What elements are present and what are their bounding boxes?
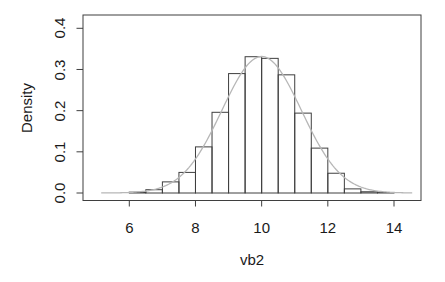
x-axis-tick-label: 8: [191, 220, 199, 235]
histogram-bar: [245, 57, 262, 193]
y-axis-tick-label: 0.4: [52, 18, 67, 39]
x-axis-tick-label: 14: [386, 220, 403, 235]
histogram-bar: [262, 58, 279, 193]
x-axis-title: vb2: [240, 252, 264, 267]
x-axis-tick-label: 12: [319, 220, 336, 235]
density-curve: [101, 57, 412, 193]
plot-box: [83, 15, 421, 201]
histogram-bar: [195, 147, 212, 193]
histogram-bar: [328, 173, 345, 193]
y-axis-tick-label: 0.0: [52, 183, 67, 204]
histogram-bar: [344, 189, 361, 193]
x-axis-tick-label: 10: [253, 220, 270, 235]
y-axis-tick-label: 0.3: [52, 59, 67, 80]
y-axis-title: Density: [19, 83, 34, 133]
y-axis-tick-label: 0.1: [52, 141, 67, 162]
histogram-bar: [361, 192, 378, 193]
y-axis-tick-label: 0.2: [52, 100, 67, 121]
r-plot-figure: 0.0 0.1 0.2 0.3 0.4 6 8 10 12 14 Density…: [0, 0, 445, 282]
x-axis-tick-label: 6: [125, 220, 133, 235]
